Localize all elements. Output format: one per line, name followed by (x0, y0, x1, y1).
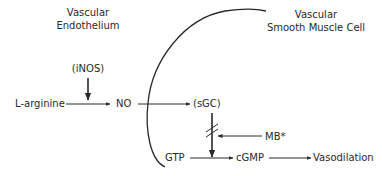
vasodilation-label: Vasodilation (313, 152, 374, 164)
smooth-muscle-label-line2: Smooth Muscle Cell (267, 22, 365, 34)
gtp-label: GTP (165, 152, 185, 164)
no-label: NO (116, 98, 131, 110)
sgc-label: (sGC) (193, 98, 221, 110)
nitric-oxide-pathway-diagram: Vascular Endothelium Vascular Smooth Mus… (0, 0, 382, 176)
inos-label: (iNOS) (72, 63, 104, 75)
cgmp-label: cGMP (236, 152, 264, 164)
mb-label: MB* (265, 131, 286, 143)
endothelium-label-line2: Endothelium (56, 20, 119, 32)
smooth-muscle-label-line1: Vascular (295, 9, 337, 21)
endothelium-label-line1: Vascular (67, 7, 109, 19)
cell-membrane-curve (147, 9, 266, 167)
l-arginine-label: L-arginine (15, 98, 65, 110)
